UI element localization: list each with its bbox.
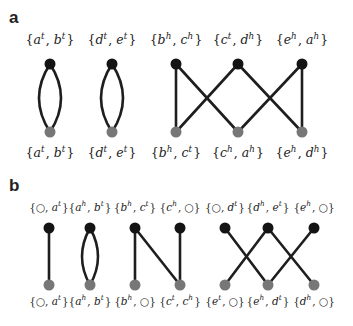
top-node — [233, 59, 244, 70]
panel-a: {at , bt }{dt , et }{bh , ch }{ct , dh }… — [26, 31, 329, 160]
top-node-label: {bh , ch } — [150, 31, 203, 47]
bottom-node-label: {ct , ch } — [159, 293, 201, 308]
bottom-node-label: {eh , dt } — [247, 293, 290, 308]
bottom-node-label: {ch , ah } — [212, 144, 264, 160]
bottom-node — [233, 127, 244, 138]
bottom-node — [45, 127, 56, 138]
bottom-node — [309, 280, 320, 291]
edge — [112, 64, 123, 132]
bottom-node-label: {dt , et } — [88, 144, 137, 160]
bottom-node-label: {○, at } — [29, 293, 69, 308]
top-node — [171, 59, 182, 70]
panel-a-label: a — [9, 8, 19, 27]
top-node-label: {○, at } — [29, 199, 69, 214]
top-node — [45, 59, 56, 70]
graph-diagram: a b {at , bt }{dt , et }{bh , ch }{ct , … — [0, 0, 353, 326]
edge — [135, 228, 180, 285]
top-node-label: {dt , et } — [88, 31, 137, 47]
top-node — [175, 223, 186, 234]
bottom-node-label: {eh , dh } — [275, 144, 328, 160]
bottom-node — [263, 280, 274, 291]
top-node — [220, 223, 231, 234]
bottom-node-label: {bh , ○} — [114, 293, 156, 308]
top-node — [107, 59, 118, 70]
top-node-label: {ah , bt } — [69, 199, 112, 214]
top-node — [130, 223, 141, 234]
top-node-label: {ch , ○} — [160, 199, 201, 214]
edge — [50, 64, 61, 132]
bottom-node — [107, 127, 118, 138]
bottom-node — [44, 280, 55, 291]
top-node-label: {at , bt } — [26, 31, 75, 47]
top-node-label: {○, dt } — [205, 199, 245, 214]
bottom-node-label: {at , bt } — [26, 144, 75, 160]
edge — [90, 228, 98, 285]
top-node-label: {eh , ah } — [276, 31, 329, 47]
bottom-node — [130, 280, 141, 291]
top-node-label: {dh , et } — [247, 199, 290, 214]
edge — [101, 64, 112, 132]
bottom-node — [297, 127, 308, 138]
top-node — [297, 59, 308, 70]
panel-b-label: b — [9, 176, 19, 195]
panel-b: {○, at }{ah , bt }{bh , ct }{ch , ○}{○, … — [29, 199, 335, 308]
top-node-label: {eh , ○} — [293, 199, 334, 214]
bottom-node-label: {et , ○} — [205, 293, 244, 308]
edge — [82, 228, 90, 285]
bottom-node-label: {dh , ○} — [293, 293, 335, 308]
top-node-label: {bh , ct } — [114, 199, 156, 214]
top-node — [85, 223, 96, 234]
bottom-node — [175, 280, 186, 291]
bottom-node-label: {ah , bt } — [69, 293, 112, 308]
bottom-node — [85, 280, 96, 291]
top-node — [309, 223, 320, 234]
top-node — [263, 223, 274, 234]
top-node — [44, 223, 55, 234]
top-node-label: {ct , dh } — [213, 31, 264, 47]
bottom-node — [171, 127, 182, 138]
edge — [39, 64, 50, 132]
bottom-node-label: {bh , ct } — [151, 144, 202, 160]
bottom-node — [220, 280, 231, 291]
